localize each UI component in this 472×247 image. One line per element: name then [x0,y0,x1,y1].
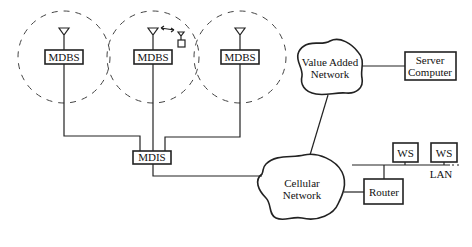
antenna-icon [59,28,69,50]
link-mdbs3-mdis [165,64,240,151]
link-mdis-cellular [153,164,262,176]
network-diagram: MDBS MDBS MDBS MDIS Value Added Network … [0,0,472,247]
lan-label: LAN [430,168,453,180]
link-mdbs1-mdis [64,64,140,151]
mdbs-label-1: MDBS [48,51,79,63]
cellular-label-line1: Cellular [284,177,320,189]
antenna-icon [235,28,245,50]
mdbs-label-3: MDBS [224,51,255,63]
van-label-line2: Network [311,68,350,80]
wireless-link-icon [161,26,174,32]
server-label-line1: Server [416,54,445,66]
ws-label-2: WS [436,147,453,159]
mdis-label: MDIS [138,151,166,163]
ws-label-1: WS [397,147,414,159]
mobile-unit-icon [178,40,185,47]
van-label-line1: Value Added [302,56,359,68]
mobile-antenna-icon [178,32,184,40]
mdbs-label-2: MDBS [137,51,168,63]
router-label: Router [369,186,399,198]
antenna-icon [148,28,158,50]
cellular-label-line2: Network [283,189,322,201]
server-label-line2: Computer [408,66,452,78]
link-van-cellular [310,95,328,155]
